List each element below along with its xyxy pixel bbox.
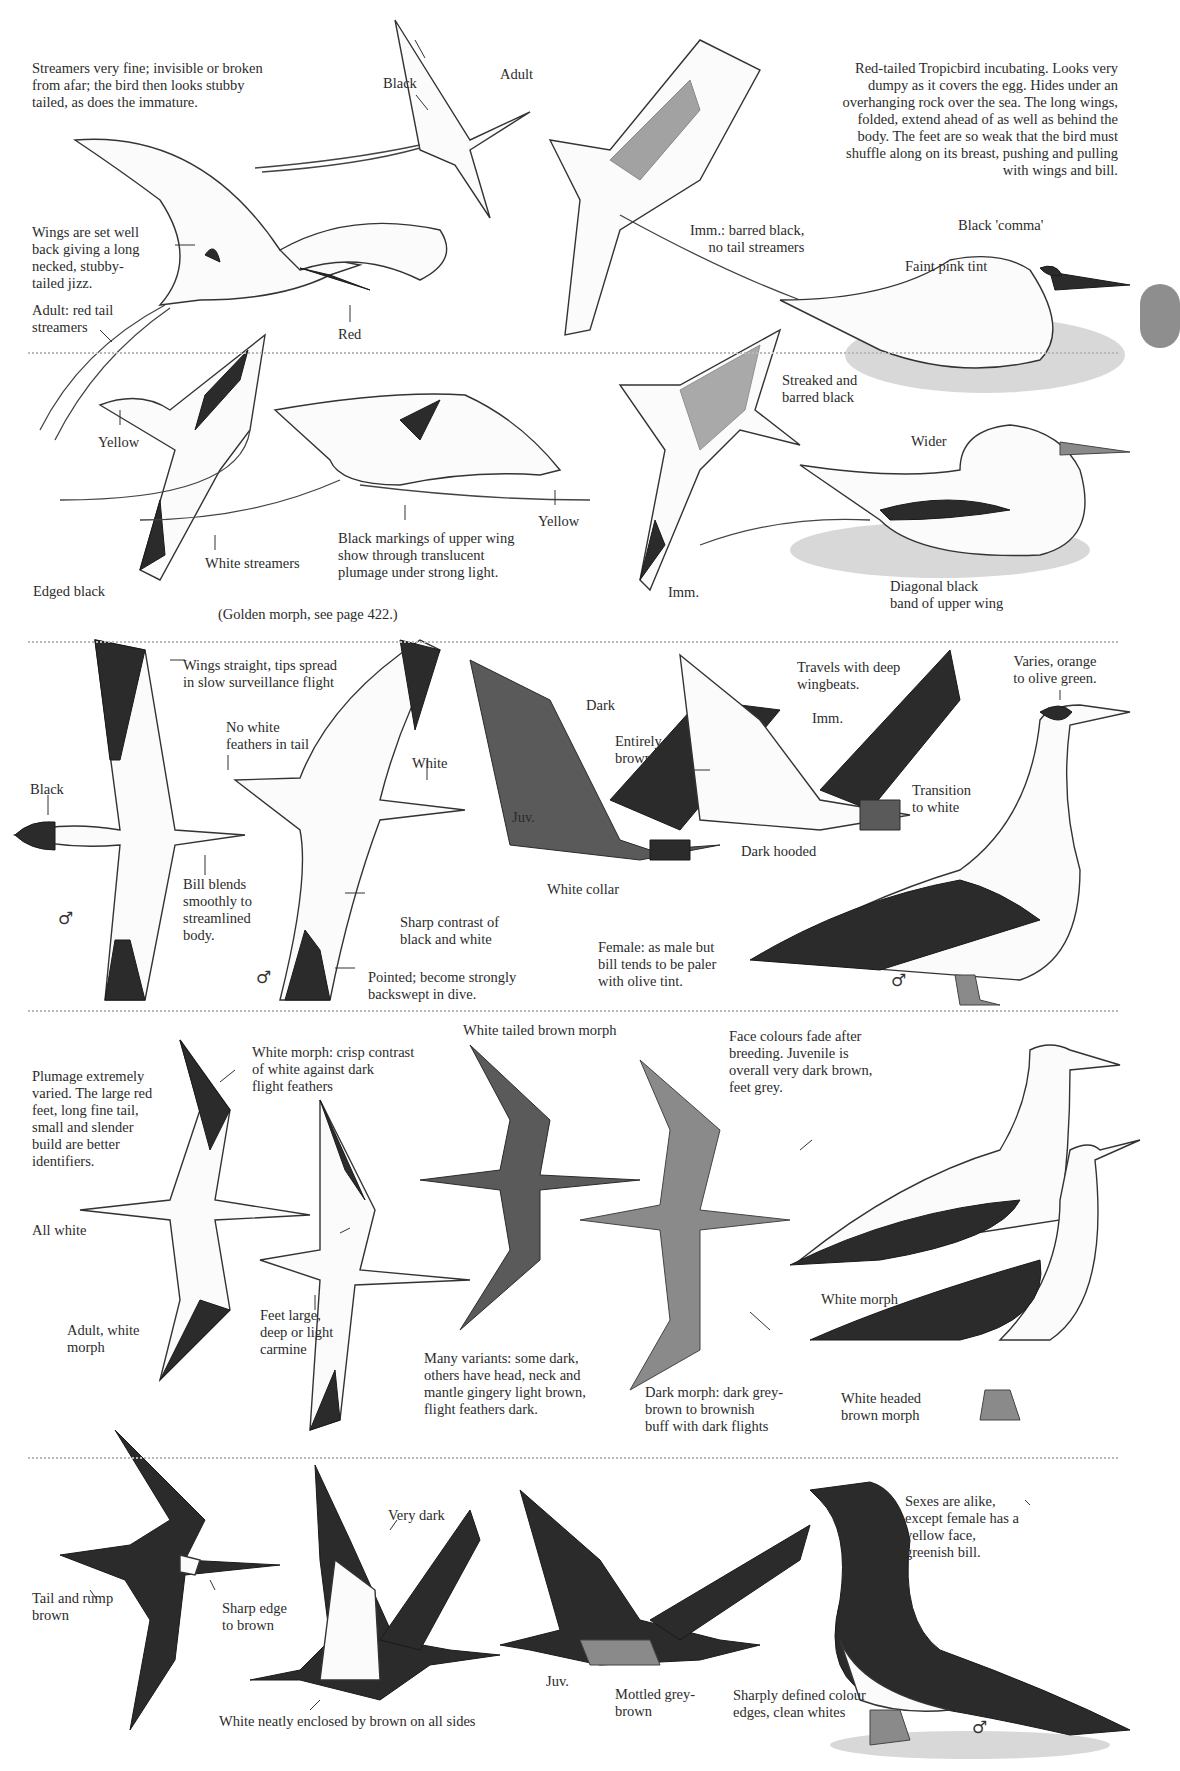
golden-morph-note: (Golden morph, see page 422.) [218,606,398,623]
sharply-defined-note: Sharply defined colour edges, clean whit… [733,1687,866,1721]
male-symbol: ♂ [891,970,906,990]
bill-blends-note: Bill blends smoothly to streamlined body… [183,876,252,944]
immature-label: Imm. [668,584,699,601]
face-colours-note: Face colours fade after breeding. Juveni… [729,1028,872,1096]
wider-label: Wider [911,433,947,450]
brown-booby-underwing-illustration [60,1430,280,1730]
red-footed-booby-standing-pair-illustration [790,1045,1140,1420]
red-footed-booby-white-tailed-brown-morph-illustration [420,1045,640,1330]
many-variants-note: Many variants: some dark, others have he… [424,1350,586,1418]
red-footed-booby-dark-morph-illustration [580,1060,790,1390]
section-divider [28,641,1118,643]
white-morph-contrast-note: White morph: crisp contrast of white aga… [252,1044,414,1095]
sexes-alike-note: Sexes are alike, except female has a yel… [905,1493,1019,1561]
entirely-dark-label: Entirely dark browns [615,733,691,767]
black-markings-note: Black markings of upper wing show throug… [338,530,514,581]
section-divider [28,1010,1118,1012]
male-symbol: ♂ [972,1717,987,1737]
white-label: White [412,755,447,772]
black-tail-label: Black [30,781,64,798]
tail-rump-brown-label: Tail and rump brown [32,1590,113,1624]
white-tailed-brown-morph-label: White tailed brown morph [463,1022,616,1039]
dark-hooded-label: Dark hooded [741,843,816,860]
brown-booby-juvenile-illustration [500,1490,810,1665]
diagonal-band-label: Diagonal black band of upper wing [890,578,1003,612]
incubating-note: Red-tailed Tropicbird incubating. Looks … [780,60,1118,179]
dark-label: Dark [586,697,615,714]
all-white-label: All white [32,1222,86,1239]
edged-black-label: Edged black [33,583,105,600]
male-symbol: ♂ [58,908,73,928]
female-note: Female: as male but bill tends to be pal… [598,939,716,990]
red-tail-streamers-label: Adult: red tail streamers [32,302,113,336]
section-divider [28,352,1118,354]
white-tailed-tropicbird-immature-illustration [620,330,800,590]
yellow-bill-label-right: Yellow [538,513,579,530]
immature-label: Imm. [812,710,843,727]
streamers-note: Streamers very fine; invisible or broken… [32,60,263,111]
immature-barred-label: Imm.: barred black, no tail streamers [690,222,804,256]
adult-label: Adult [500,66,533,83]
dark-morph-note: Dark morph: dark grey- brown to brownish… [645,1384,783,1435]
male-symbol: ♂ [256,967,271,987]
black-label: Black [383,75,417,92]
black-comma-label: Black 'comma' [958,217,1043,234]
transition-label: Transition to white [912,782,971,816]
section-divider [28,1457,1118,1459]
streaked-barred-label: Streaked and barred black [782,372,857,406]
juvenile-label: Juv. [512,809,535,826]
juvenile-label: Juv. [546,1673,569,1690]
adult-white-morph-label: Adult, white morph [67,1322,140,1356]
yellow-bill-label-left: Yellow [98,434,139,451]
white-tailed-tropicbird-adult-illustration [255,20,530,218]
plumage-varied-note: Plumage extremely varied. The large red … [32,1068,152,1170]
faint-pink-tint-label: Faint pink tint [905,258,987,275]
masked-booby-underwing-illustration [15,640,245,1000]
white-headed-brown-morph-label: White headed brown morph [841,1390,921,1424]
bill-varies-note: Varies, orange to olive green. [990,653,1120,687]
travels-note: Travels with deep wingbeats. [797,659,900,693]
red-tailed-tropicbird-immature-illustration [550,40,800,335]
white-collar-label: White collar [547,881,619,898]
feet-large-note: Feet large, deep or light carmine [260,1307,333,1358]
wings-straight-note: Wings straight, tips spread in slow surv… [183,657,337,691]
mottled-grey-brown-label: Mottled grey- brown [615,1686,695,1720]
red-bill-label: Red [338,326,361,343]
page-thumb-tab [1140,284,1180,348]
pointed-dive-note: Pointed; become strongly backswept in di… [368,969,516,1003]
white-streamers-label: White streamers [205,555,300,572]
wings-set-back-note: Wings are set well back giving a long ne… [32,224,140,292]
sharp-edge-label: Sharp edge to brown [222,1600,287,1634]
sharp-contrast-note: Sharp contrast of black and white [400,914,499,948]
very-dark-label: Very dark [388,1507,445,1524]
white-morph-label: White morph [821,1291,898,1308]
white-enclosed-note: White neatly enclosed by brown on all si… [219,1713,476,1730]
no-white-tail-note: No white feathers in tail [226,719,309,753]
brown-booby-upperwing-illustration [250,1465,500,1700]
